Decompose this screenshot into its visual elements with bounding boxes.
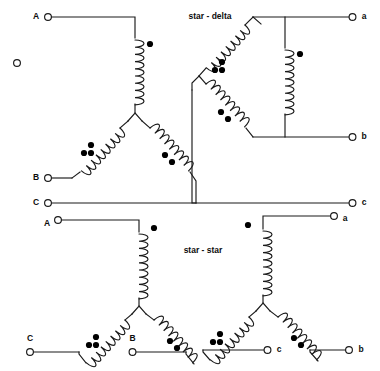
terminal-label-c-bottom-right: c: [277, 344, 282, 354]
polarity-dot-tl-ll-1: [88, 142, 94, 148]
lead-wire-A-top-left: [52, 17, 136, 38]
polarity-dot-tr-ll-2: [225, 116, 231, 122]
polarity-dot-tr-ul-2: [219, 67, 225, 73]
polarity-dot-bl-ll-3: [86, 342, 92, 348]
polarity-dot-br-lr-2: [298, 342, 304, 348]
winding-lead-br-lr-top: [270, 311, 278, 317]
terminal-node-B-bottom-left[interactable]: [129, 349, 136, 356]
polarity-dot-tr-ul-3: [212, 67, 218, 73]
winding-lower-left-tl: [72, 121, 128, 178]
lead-wire-a-bottom-right: [263, 216, 331, 229]
title-star-delta: star - delta: [189, 11, 232, 21]
terminal-node-A-top-left[interactable]: [45, 14, 52, 21]
polarity-dot-br-top-1: [245, 222, 251, 228]
polarity-dot-bl-top-1: [151, 225, 157, 231]
polarity-dot-tr-center-1: [297, 51, 303, 57]
winding-lead-tl-lr-top: [142, 121, 150, 128]
polarity-dot-tr-ul-1: [219, 59, 225, 65]
winding-top-vertical-br: [263, 231, 272, 303]
terminal-node-b-top-right[interactable]: [349, 134, 356, 141]
polarity-dot-tl-lr-2: [169, 159, 175, 165]
winding-lead-br-ll-top: [249, 311, 256, 317]
winding-lead-bl-ll-bot: [79, 352, 86, 363]
diagram-bottom-right-star: a c: [203, 213, 364, 366]
winding-lead-tr-ll-bot: [246, 128, 253, 137]
winding-lower-left-br: [203, 311, 256, 366]
star-point-junction-bl: [132, 306, 146, 314]
terminal-node-a-top-right[interactable]: [349, 14, 356, 21]
polarity-dot-br-ll-1: [217, 331, 223, 337]
title-star-star: star - star: [184, 245, 223, 255]
polarity-dot-tl-ll-2: [88, 150, 94, 156]
star-point-junction-tl: [128, 113, 142, 121]
terminal-label-c-top-right: c: [362, 197, 367, 207]
polarity-dot-br-ll-2: [217, 339, 223, 345]
winding-top-vertical-bl: [139, 234, 148, 306]
terminal-label-b-top-right: b: [361, 131, 366, 141]
terminal-node-b-bottom-right[interactable]: [346, 347, 353, 354]
terminal-label-B-bottom-left: B: [129, 333, 135, 343]
polarity-dot-tr-ll-1: [218, 109, 224, 115]
winding-lead-tl-ll-bot: [72, 172, 80, 178]
polarity-dot-tl-top-1: [147, 41, 153, 47]
polarity-dot-tl-ll-3: [81, 150, 87, 156]
winding-top-vertical-tl: [135, 40, 144, 113]
winding-lower-right-bl: [146, 314, 199, 364]
terminal-node-A-bottom-left[interactable]: [55, 217, 62, 224]
terminal-label-a-bottom-right: a: [343, 213, 348, 223]
terminal-node-B-top-left[interactable]: [45, 175, 52, 182]
terminal-node-C-top-left[interactable]: [45, 200, 52, 207]
winding-lead-br-ll-bot: [203, 350, 210, 360]
polarity-dot-br-lr-1: [291, 335, 297, 341]
winding-lead-tr-ul-bot: [199, 68, 206, 76]
winding-lower-left-bl: [79, 314, 132, 369]
winding-center-vertical-tr: [285, 17, 294, 137]
transformer-winding-diagram: A B: [0, 0, 380, 371]
terminal-label-a-top-right: a: [362, 11, 367, 21]
winding-lead-bl-ll-top: [125, 314, 132, 320]
polarity-dot-bl-ll-1: [93, 334, 99, 340]
delta-top-vertex-tr: [253, 17, 261, 24]
terminal-node-c-bottom-right[interactable]: [264, 347, 271, 354]
terminal-label-B-top-left: B: [33, 172, 39, 182]
lead-wire-c-top-right: [192, 90, 349, 203]
winding-upper-left-tr: [199, 17, 253, 76]
diagram-bottom-left-star: A C: [27, 217, 200, 369]
diagram-top-left-star: A B: [33, 11, 196, 207]
terminal-node-a-bottom-right[interactable]: [331, 213, 338, 220]
winding-lead-tl-lr-bot: [190, 172, 196, 203]
winding-lead-tr-ul-top: [245, 17, 253, 25]
terminal-label-C-bottom-left: C: [27, 333, 33, 343]
winding-lead-tl-ll-top: [120, 121, 128, 128]
diagram-top-right-delta: a: [192, 11, 367, 207]
polarity-dot-bl-ll-2: [93, 342, 99, 348]
delta-left-vertex-lower-tr: [199, 76, 206, 84]
terminal-node-c-top-right[interactable]: [349, 200, 356, 207]
polarity-dot-bl-lr-1: [167, 338, 173, 344]
terminal-label-A-bottom-left: A: [44, 218, 50, 228]
terminal-node-C-bottom-left[interactable]: [27, 349, 34, 356]
polarity-dot-bl-lr-2: [174, 345, 180, 351]
terminal-label-C-top-left: C: [33, 197, 39, 207]
polarity-dot-br-ll-3: [210, 339, 216, 345]
lead-wire-A-bottom-left: [62, 220, 140, 232]
winding-lead-bl-lr-top: [146, 314, 154, 320]
star-point-junction-br: [256, 303, 270, 311]
terminal-label-A-top-left: A: [33, 11, 39, 21]
winding-lower-left-tr: [206, 78, 253, 137]
polarity-dot-tl-lr-1: [162, 152, 168, 158]
unconnected-terminal-circle[interactable]: [14, 60, 21, 67]
delta-left-vertex-tr: [192, 76, 199, 90]
terminal-label-b-bottom-right: b: [358, 344, 363, 354]
